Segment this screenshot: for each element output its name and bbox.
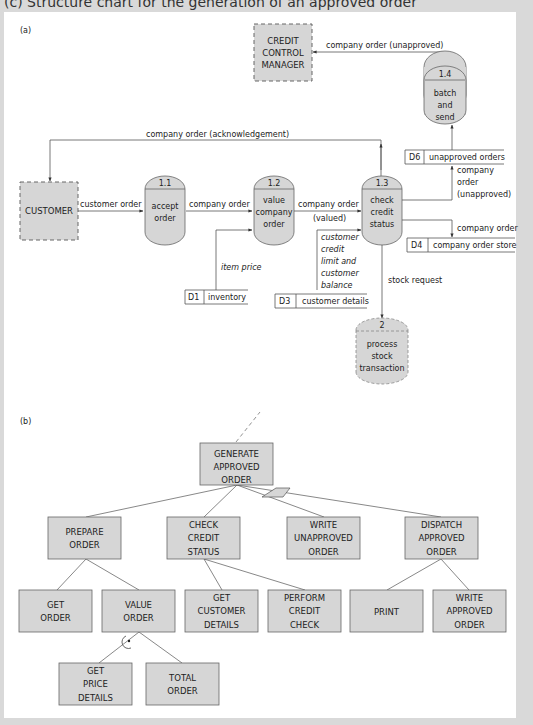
svg-text:DISPATCH: DISPATCH	[421, 520, 462, 530]
process-1-4: 1.4 batch and send	[424, 51, 466, 124]
svg-text:CUSTOMER: CUSTOMER	[25, 206, 73, 216]
flow-acknowledgement	[50, 140, 381, 191]
flow-label-credit-1: customer	[321, 233, 359, 242]
svg-text:CHECK: CHECK	[290, 620, 320, 630]
svg-text:GET: GET	[213, 593, 231, 603]
flow-label-unapproved-3: (unapproved)	[457, 190, 511, 199]
svg-text:1.3: 1.3	[376, 179, 389, 188]
svg-text:STATUS: STATUS	[188, 547, 220, 557]
store-d4: D4 company order store	[407, 238, 517, 252]
flow-label-unapproved-top: company order (unapproved)	[326, 41, 443, 50]
module-check-credit-status: CHECK CREDIT STATUS	[167, 517, 240, 559]
svg-text:CHECK: CHECK	[189, 520, 219, 530]
process-1-2: 1.2 value company order	[254, 176, 294, 245]
module-perform-credit-check: PERFORM CREDIT CHECK	[268, 590, 341, 632]
svg-text:order: order	[263, 220, 285, 229]
svg-text:D1: D1	[188, 293, 199, 302]
part-a-label: (a)	[20, 26, 31, 35]
svg-text:PREPARE: PREPARE	[65, 527, 103, 537]
svg-text:customer details: customer details	[302, 297, 369, 306]
svg-text:CUSTOMER: CUSTOMER	[197, 606, 245, 616]
module-prepare-order: PREPARE ORDER	[48, 517, 121, 559]
svg-text:process: process	[367, 340, 398, 349]
svg-text:D3: D3	[279, 297, 290, 306]
flow-label-acknowledgement: company order (acknowledgement)	[146, 130, 289, 139]
svg-text:ORDER: ORDER	[426, 547, 457, 557]
svg-text:ORDER: ORDER	[454, 620, 485, 630]
svg-text:APPROVED: APPROVED	[446, 606, 493, 616]
module-get-price-details: GET PRICE DETAILS	[59, 663, 132, 705]
svg-text:status: status	[370, 220, 395, 229]
svg-text:GENERATE: GENERATE	[214, 449, 259, 459]
svg-text:DETAILS: DETAILS	[204, 620, 239, 630]
module-get-order: GET ORDER	[19, 590, 92, 632]
flow-label-item-price: item price	[221, 263, 262, 272]
module-write-approved-order: WRITE APPROVED ORDER	[433, 590, 506, 632]
svg-text:CREDIT: CREDIT	[289, 606, 321, 616]
module-dispatch-approved-order: DISPATCH APPROVED ORDER	[405, 517, 478, 559]
svg-text:CREDIT: CREDIT	[267, 36, 299, 46]
flow-unapproved-to-d6	[402, 166, 452, 200]
svg-text:PRICE: PRICE	[83, 679, 108, 689]
structure-connectors	[57, 485, 469, 663]
svg-text:ORDER: ORDER	[40, 613, 71, 623]
store-d6: D6 unapproved orders	[405, 150, 505, 164]
svg-text:accept: accept	[152, 202, 179, 211]
svg-text:GET: GET	[87, 666, 105, 676]
svg-text:UNAPPROVED: UNAPPROVED	[294, 533, 353, 543]
svg-text:unapproved orders: unapproved orders	[429, 153, 505, 162]
entity-customer: CUSTOMER	[20, 182, 78, 240]
svg-text:1.4: 1.4	[439, 70, 452, 79]
module-total-order: TOTAL ORDER	[146, 663, 219, 705]
iteration-loop-icon	[122, 636, 131, 649]
svg-text:MANAGER: MANAGER	[261, 60, 304, 70]
svg-text:batch: batch	[434, 89, 457, 98]
diagram-canvas: (a) CREDIT CONTROL MANAGER company order…	[0, 0, 533, 725]
svg-text:D6: D6	[409, 153, 420, 162]
svg-text:CONTROL: CONTROL	[262, 48, 304, 58]
flow-to-d4	[402, 220, 452, 237]
svg-text:WRITE: WRITE	[456, 593, 483, 603]
svg-text:ORDER: ORDER	[221, 475, 252, 485]
svg-text:2: 2	[379, 321, 384, 330]
flow-label-company-order: company order	[189, 200, 250, 209]
svg-text:ORDER: ORDER	[167, 686, 198, 696]
svg-text:PRINT: PRINT	[374, 607, 400, 617]
svg-text:ORDER: ORDER	[123, 613, 154, 623]
svg-text:check: check	[370, 196, 394, 205]
svg-text:value: value	[263, 196, 285, 205]
flow-label-stock-request: stock request	[388, 276, 442, 285]
module-value-order: VALUE ORDER	[102, 590, 175, 632]
svg-text:inventory: inventory	[208, 293, 246, 302]
process-1-3: 1.3 check credit status	[362, 176, 402, 245]
svg-text:stock: stock	[371, 352, 393, 361]
svg-text:order: order	[154, 214, 176, 223]
svg-text:ORDER: ORDER	[69, 540, 100, 550]
flow-label-unapproved-1: company	[457, 166, 494, 175]
svg-text:company: company	[256, 208, 293, 217]
flow-label-to-store: company order	[457, 224, 518, 233]
svg-text:1.2: 1.2	[268, 179, 281, 188]
svg-text:VALUE: VALUE	[125, 600, 152, 610]
svg-text:send: send	[435, 113, 454, 122]
svg-text:credit: credit	[371, 208, 394, 217]
entity-credit-control-manager: CREDIT CONTROL MANAGER	[254, 24, 312, 81]
flow-label-credit-2: credit	[321, 245, 345, 254]
flow-label-credit-4: customer	[321, 269, 359, 278]
svg-text:APPROVED: APPROVED	[418, 533, 465, 543]
store-d3: D3 customer details	[275, 294, 369, 308]
flow-item-price	[216, 230, 252, 290]
part-b-label: (b)	[20, 417, 31, 426]
svg-text:WRITE: WRITE	[310, 520, 337, 530]
flow-label-credit-3: limit and	[321, 257, 357, 266]
svg-text:D4: D4	[411, 241, 422, 250]
svg-text:and: and	[437, 101, 452, 110]
process-2: 2 process stock transaction	[356, 318, 408, 384]
flow-label-credit-5: balance	[321, 281, 353, 290]
svg-text:company order store: company order store	[433, 241, 517, 250]
module-write-unapproved-order: WRITE UNAPPROVED ORDER	[287, 517, 360, 559]
svg-text:TOTAL: TOTAL	[168, 673, 196, 683]
root-incoming-dashed	[236, 412, 260, 442]
svg-text:ORDER: ORDER	[308, 547, 339, 557]
svg-text:DETAILS: DETAILS	[78, 693, 113, 703]
